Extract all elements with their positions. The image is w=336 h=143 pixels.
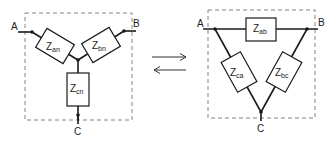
wye-node-a [30,30,34,34]
impedance-zca: Zca [221,52,257,93]
wye-terminal-b: B [133,18,140,29]
wye-terminal-c: C [74,126,81,137]
wye-node-c [76,113,80,117]
impedance-zan: Zan [36,28,75,63]
impedance-zab: Zab [246,18,276,41]
wye-node-b [122,29,126,33]
wye-delta-diagram: Zan Zbn Zcn A B C [0,0,336,143]
impedance-zbc: Zbc [266,52,302,92]
delta-node-b [305,27,309,31]
impedance-zcn: Zcn [67,73,89,106]
wye-terminal-a: A [11,21,18,32]
wye-network: Zan Zbn Zcn A B C [11,13,140,137]
delta-network: Zab Zca Zbc A B C [197,10,325,134]
wye-node-n [76,58,80,62]
transform-arrows [152,54,186,74]
delta-terminal-b: B [318,17,325,28]
delta-terminal-c: C [257,123,264,134]
delta-terminal-a: A [197,18,204,29]
delta-node-c [259,110,263,114]
impedance-zbn: Zbn [82,27,121,62]
delta-node-a [213,27,217,31]
